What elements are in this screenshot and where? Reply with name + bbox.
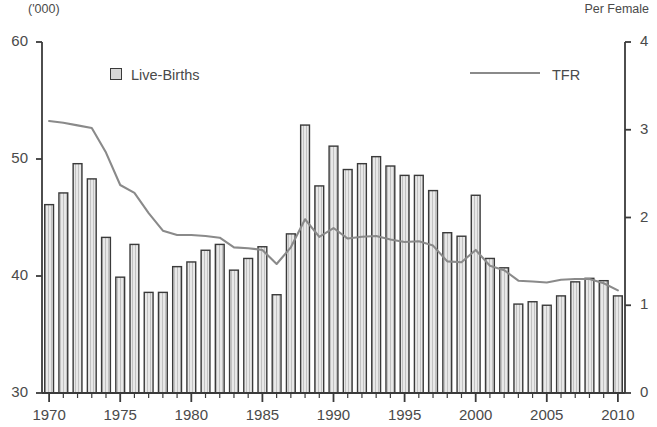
x-axis-tick-label: 1985 [246, 406, 279, 423]
x-axis-tick-label: 1975 [104, 406, 137, 423]
x-axis-tick-label: 2000 [459, 406, 492, 423]
x-axis-tick-label: 1980 [175, 406, 208, 423]
x-axis-ticks: 197019751980198519901995200020052010 [0, 0, 657, 427]
x-axis-tick-label: 2005 [530, 406, 563, 423]
x-axis-tick-label: 1995 [388, 406, 421, 423]
chart-container: ('000) Per Female Live-Births TFR 304050… [0, 0, 657, 427]
x-axis-tick-label: 2010 [601, 406, 634, 423]
x-axis-tick-label: 1990 [317, 406, 350, 423]
x-axis-tick-label: 1970 [32, 406, 65, 423]
